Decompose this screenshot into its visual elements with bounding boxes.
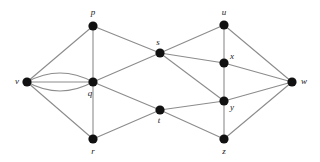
edge-r-t: [93, 110, 160, 139]
edge-q-s: [93, 53, 160, 82]
edge-x-w: [224, 63, 292, 82]
node-z: [219, 134, 228, 143]
node-r: [88, 134, 97, 143]
edge-y-w: [224, 82, 292, 101]
node-label-x: x: [229, 51, 234, 61]
edge-v-p: [27, 26, 93, 82]
edge-t-z: [160, 110, 224, 139]
node-label-s: s: [156, 37, 160, 47]
node-label-t: t: [158, 115, 161, 125]
node-p: [88, 21, 97, 30]
node-label-v: v: [15, 76, 19, 86]
edge-v-q: [27, 82, 93, 91]
node-x: [219, 58, 228, 67]
graph-canvas: vpqrstuxyzw: [0, 0, 320, 162]
node-label-z: z: [221, 146, 226, 156]
edge-v-q: [27, 73, 93, 82]
node-label-q: q: [88, 88, 93, 98]
edge-s-x: [160, 53, 224, 63]
edge-q-t: [93, 82, 160, 110]
edge-u-w: [224, 25, 292, 82]
edge-t-y: [160, 101, 224, 110]
node-label-y: y: [229, 102, 234, 112]
node-label-u: u: [222, 7, 227, 17]
node-label-r: r: [91, 146, 95, 156]
edge-p-s: [93, 26, 160, 53]
node-y: [219, 96, 228, 105]
edge-s-y: [160, 53, 224, 101]
graph-diagram: vpqrstuxyzw: [0, 0, 320, 162]
node-label-p: p: [90, 7, 96, 17]
node-v: [22, 77, 31, 86]
node-w: [287, 77, 296, 86]
node-q: [88, 77, 97, 86]
node-u: [219, 20, 228, 29]
node-label-w: w: [301, 76, 307, 86]
edge-z-w: [224, 82, 292, 139]
node-s: [155, 48, 164, 57]
edge-s-u: [160, 25, 224, 53]
node-t: [155, 105, 164, 114]
